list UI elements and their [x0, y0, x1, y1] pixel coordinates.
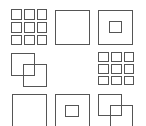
square-outline-icon [111, 64, 122, 74]
square-outline-icon [37, 35, 47, 45]
square-outline-icon [12, 94, 47, 126]
square-outline-icon [110, 105, 133, 126]
square-outline-icon [124, 76, 134, 85]
square-outline-icon [11, 35, 22, 45]
square-outline-icon [24, 9, 35, 20]
square-outline-icon [124, 52, 134, 62]
square-outline-icon [111, 76, 122, 85]
square-outline-icon [11, 22, 22, 33]
square-outline-icon [37, 9, 47, 20]
square-outline-icon [55, 10, 90, 45]
square-outline-icon [24, 35, 35, 45]
square-outline-icon [23, 64, 47, 87]
square-outline-icon [11, 9, 22, 20]
square-outline-icon [98, 76, 109, 85]
square-outline-icon [98, 52, 109, 62]
square-outline-icon [111, 52, 122, 62]
square-outline-icon [109, 21, 122, 33]
puzzle-matrix [0, 0, 146, 126]
square-outline-icon [65, 105, 79, 117]
square-outline-icon [98, 64, 109, 74]
square-outline-icon [24, 22, 35, 33]
square-outline-icon [124, 64, 134, 74]
square-outline-icon [37, 22, 47, 33]
